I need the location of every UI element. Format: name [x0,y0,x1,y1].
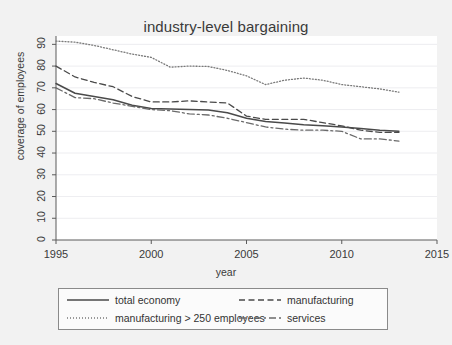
y-tick-label-20: 20 [35,185,47,207]
legend-entry-services[interactable]: services [239,312,326,324]
x-tick-label-1995: 1995 [33,248,79,260]
chart-card: industry-level bargaining coverage of em… [0,0,452,345]
y-tick-label-40: 40 [35,141,47,163]
x-tick-label-2010: 2010 [319,248,365,260]
y-tick-label-50: 50 [35,119,47,141]
legend-label: services [287,312,326,324]
y-tick-label-10: 10 [35,206,47,228]
legend-label: manufacturing [287,294,354,306]
legend-swatch-solid-icon [67,295,109,305]
y-tick-label-70: 70 [35,76,47,98]
chart-legend: total economymanufacturingmanufacturing … [58,288,388,330]
x-axis-label: year [0,266,452,278]
y-axis-label: coverage of employees [14,26,26,186]
plot-background [56,36,437,240]
x-tick-label-2005: 2005 [224,248,270,260]
legend-entry-total-economy[interactable]: total economy [67,294,180,306]
legend-entry-manufacturing[interactable]: manufacturing [239,294,354,306]
x-tick-label-2000: 2000 [128,248,174,260]
y-tick-label-30: 30 [35,163,47,185]
chart-title: industry-level bargaining [0,18,452,35]
y-tick-label-0: 0 [35,228,47,250]
legend-swatch-dashdot-icon [239,313,281,323]
y-tick-label-90: 90 [35,32,47,54]
legend-swatch-dashed-icon [239,295,281,305]
legend-swatch-dotted-icon [67,313,109,323]
legend-entry-manufacturing-250-employees[interactable]: manufacturing > 250 employees [67,312,265,324]
y-tick-label-80: 80 [35,54,47,76]
legend-label: total economy [115,294,180,306]
x-tick-label-2015: 2015 [414,248,452,260]
chart-figure: industry-level bargaining coverage of em… [0,0,452,345]
y-tick-label-60: 60 [35,98,47,120]
